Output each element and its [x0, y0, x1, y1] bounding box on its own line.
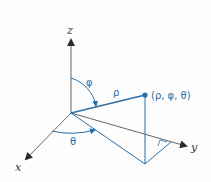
diagram-svg: z x y φ ρ θ (ρ, φ, θ) [0, 0, 211, 182]
projection-line [71, 113, 145, 164]
rho-label: ρ [113, 87, 119, 98]
y-axis-label: y [190, 141, 198, 154]
point-marker [142, 92, 147, 97]
theta-arc [52, 130, 95, 133]
x-axis-label: x [15, 161, 22, 174]
right-angle-mark [158, 140, 167, 146]
rho-vector [71, 95, 145, 113]
y-axis [71, 113, 186, 146]
x-axis [26, 113, 71, 159]
phi-label: φ [86, 77, 93, 88]
theta-label: θ [70, 136, 76, 147]
point-label: (ρ, φ, θ) [151, 90, 191, 101]
z-axis-label: z [66, 24, 73, 37]
spherical-coordinates-diagram: z x y φ ρ θ (ρ, φ, θ) [0, 0, 211, 182]
